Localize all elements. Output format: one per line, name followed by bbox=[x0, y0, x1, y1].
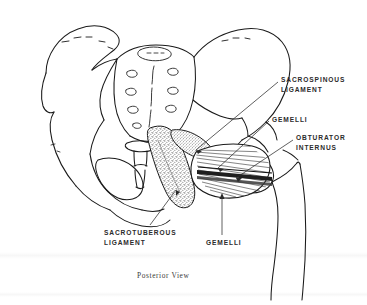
pelvis-anatomy-illustration bbox=[0, 0, 367, 305]
label-line-2: LIGAMENT bbox=[104, 239, 146, 246]
label-line-1: SACROTUBEROUS bbox=[104, 229, 177, 236]
label-sacrotuberous-ligament: SACROTUBEROUS LIGAMENT bbox=[104, 228, 177, 247]
label-sacrospinous-ligament: SACROSPINOUS LIGAMENT bbox=[281, 75, 345, 94]
label-gemelli-top: GEMELLI bbox=[272, 115, 308, 125]
figure-caption: Posterior View bbox=[137, 271, 189, 280]
label-gemelli-bottom: GEMELLI bbox=[206, 238, 242, 248]
label-line-2: INTERNUS bbox=[296, 144, 337, 151]
leader-sacrotuberous bbox=[150, 190, 176, 225]
right-femur bbox=[271, 150, 306, 300]
label-line-1: GEMELLI bbox=[272, 116, 308, 123]
right-iliac-wing bbox=[193, 29, 290, 159]
leader-sacrospinous bbox=[196, 82, 278, 150]
obturator-internus-muscle bbox=[191, 144, 272, 198]
label-obturator-internus: OBTURATOR INTERNUS bbox=[296, 133, 346, 152]
label-line-1: OBTURATOR bbox=[296, 134, 346, 141]
label-line-2: LIGAMENT bbox=[281, 86, 323, 93]
label-line-1: GEMELLI bbox=[206, 239, 242, 246]
label-line-1: SACROSPINOUS bbox=[281, 76, 345, 83]
left-iliac-wing bbox=[42, 26, 120, 210]
